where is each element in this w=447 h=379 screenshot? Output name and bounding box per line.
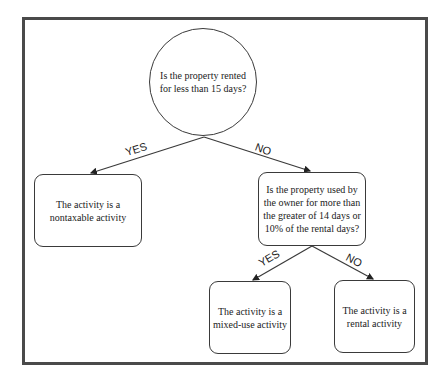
nontaxable-text: The activity is a nontaxable activity [48,198,128,224]
rental-text: The activity is a rental activity [339,304,411,330]
second-decision-node: Is the property used by the owner for mo… [258,172,366,246]
rental-node: The activity is a rental activity [334,280,415,353]
second-question-text: Is the property used by the owner for mo… [262,183,362,235]
arrow-second-no [312,246,373,279]
mixed-use-text: The activity is a mixed-use activity [212,305,288,331]
mixed-use-node: The activity is a mixed-use activity [209,281,291,354]
root-decision-node: Is the property rented for less than 15 … [149,28,257,136]
nontaxable-node: The activity is a nontaxable activity [34,174,142,247]
root-question-text: Is the property rented for less than 15 … [155,69,251,95]
arrow-root-yes [91,137,204,173]
